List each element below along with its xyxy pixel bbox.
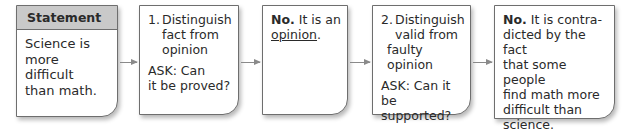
answer2-line: find math more bbox=[503, 87, 608, 102]
answer2-line: dicted by the fact bbox=[503, 27, 608, 57]
answer1-box: No. It is an opinion. bbox=[262, 5, 348, 115]
step1-title-line: fact from bbox=[162, 27, 232, 42]
step2-title-line: valid from bbox=[395, 27, 465, 42]
arrow-1 bbox=[120, 62, 137, 63]
step2-box: 2. Distinguish valid from faulty opinion… bbox=[372, 5, 471, 115]
arrow-4 bbox=[473, 62, 492, 63]
arrow-3 bbox=[350, 62, 370, 63]
statement-line: than math. bbox=[25, 83, 111, 99]
answer2-box: No. It is contra- dicted by the fact tha… bbox=[494, 5, 615, 119]
answer2-text: It is contra- bbox=[527, 12, 602, 27]
step2-title-line: faulty opinion bbox=[387, 42, 465, 72]
statement-line: more difficult bbox=[25, 52, 111, 83]
answer1-text: It is an bbox=[295, 12, 341, 27]
arrow-2 bbox=[241, 62, 260, 63]
step1-box: 1. Distinguish fact from opinion ASK: Ca… bbox=[139, 5, 239, 115]
answer2-bold: No. bbox=[503, 12, 527, 27]
answer1-bold: No. bbox=[271, 12, 295, 27]
step1-number: 1. bbox=[148, 12, 162, 57]
step2-ask-line: ASK: Can it bbox=[381, 78, 464, 93]
answer1-underlined: opinion bbox=[271, 27, 317, 42]
answer2-line: difficult than bbox=[503, 102, 608, 117]
answer2-line: that some people bbox=[503, 57, 608, 87]
step1-ask-line: it be proved? bbox=[148, 78, 232, 93]
step2-ask-line: be supported? bbox=[381, 93, 464, 123]
step1-title-line: opinion bbox=[162, 42, 232, 57]
statement-line: Science is bbox=[25, 36, 111, 52]
step1-ask-line: ASK: Can bbox=[148, 63, 232, 78]
answer2-line: science. bbox=[503, 117, 608, 132]
answer1-trailing: . bbox=[317, 27, 321, 42]
step2-title-line: Distinguish bbox=[395, 12, 465, 27]
step1-title-line: Distinguish bbox=[162, 12, 232, 27]
statement-box: Statement Science is more difficult than… bbox=[16, 5, 118, 117]
statement-header: Statement bbox=[17, 6, 117, 30]
